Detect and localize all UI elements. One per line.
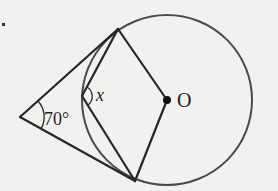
radius-lower: [135, 100, 167, 181]
circle-tangent-diagram: 70° x O: [0, 0, 278, 191]
center-dot: [163, 96, 171, 104]
label-unknown-angle: x: [95, 85, 104, 105]
label-center: O: [177, 89, 191, 111]
label-given-angle: 70°: [44, 109, 69, 129]
tangent-line-lower: [20, 117, 135, 181]
angle-arc-x: [87, 87, 92, 105]
chord-lower: [82, 96, 135, 181]
radius-upper: [118, 29, 167, 100]
stray-dot: [2, 23, 5, 26]
